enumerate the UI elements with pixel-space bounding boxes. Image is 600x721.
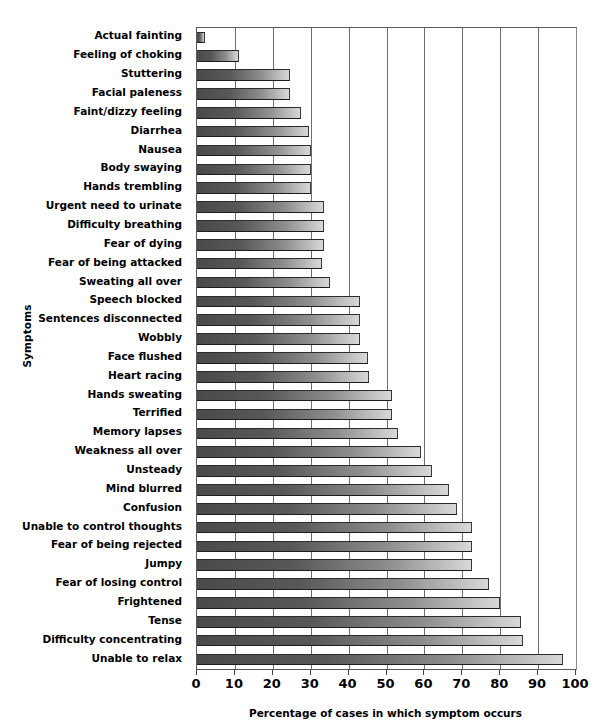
x-tick-label: 10	[214, 676, 254, 691]
y-axis-label: Unable to relax	[0, 653, 182, 664]
y-axis-label: Heart racing	[0, 370, 182, 381]
x-tick-mark	[196, 669, 197, 675]
bar	[197, 635, 523, 647]
y-axis-label: Feeling of choking	[0, 49, 182, 60]
bar	[197, 32, 205, 44]
bar	[197, 616, 521, 628]
y-axis-label: Diarrhea	[0, 125, 182, 136]
y-axis-label: Terrified	[0, 407, 182, 418]
bar	[197, 107, 301, 119]
y-axis-label: Fear of dying	[0, 238, 182, 249]
bar-row	[197, 443, 576, 462]
y-axis-label: Hands sweating	[0, 389, 182, 400]
bar-chart: Symptoms Actual faintingFeeling of choki…	[0, 0, 600, 721]
y-axis-label: Nausea	[0, 144, 182, 155]
x-tick-mark	[272, 669, 273, 675]
bar-row	[197, 556, 576, 575]
bar-row	[197, 594, 576, 613]
x-tick-mark	[575, 669, 576, 675]
bar-row	[197, 217, 576, 236]
bar-row	[197, 499, 576, 518]
bar-row	[197, 612, 576, 631]
y-axis-label: Urgent need to urinate	[0, 200, 182, 211]
x-tick-mark	[310, 669, 311, 675]
y-axis-label: Unsteady	[0, 464, 182, 475]
y-axis-label: Stuttering	[0, 68, 182, 79]
bar-row	[197, 160, 576, 179]
bar	[197, 465, 432, 477]
bar-row	[197, 480, 576, 499]
bar	[197, 578, 489, 590]
x-tick-mark	[499, 669, 500, 675]
y-axis-label: Facial paleness	[0, 87, 182, 98]
x-tick-label: 40	[328, 676, 368, 691]
bar-row	[197, 462, 576, 481]
bar	[197, 522, 472, 534]
bar	[197, 277, 330, 289]
y-axis-label: Frightened	[0, 596, 182, 607]
bar-row	[197, 85, 576, 104]
bar-row	[197, 537, 576, 556]
x-tick-mark	[348, 669, 349, 675]
y-axis-label: Speech blocked	[0, 294, 182, 305]
bar	[197, 446, 421, 458]
plot-area	[196, 27, 577, 670]
bar-row	[197, 575, 576, 594]
y-axis-label: Sweating all over	[0, 276, 182, 287]
bar	[197, 50, 239, 62]
bar-row	[197, 47, 576, 66]
bar	[197, 409, 392, 421]
bar	[197, 201, 324, 213]
y-axis-label: Wobbly	[0, 332, 182, 343]
bar	[197, 296, 360, 308]
bar	[197, 239, 324, 251]
bar	[197, 182, 311, 194]
bar-row	[197, 405, 576, 424]
y-axis-label: Face flushed	[0, 351, 182, 362]
bar	[197, 371, 369, 383]
y-axis-label: Difficulty concentrating	[0, 634, 182, 645]
bar	[197, 333, 360, 345]
bar-row	[197, 386, 576, 405]
bar	[197, 258, 322, 270]
y-axis-label: Fear of being rejected	[0, 539, 182, 550]
bar-row	[197, 349, 576, 368]
bar-row	[197, 367, 576, 386]
x-tick-label: 70	[441, 676, 481, 691]
y-axis-label: Fear of losing control	[0, 577, 182, 588]
bar-row	[197, 66, 576, 85]
x-tick-mark	[234, 669, 235, 675]
bar	[197, 220, 324, 232]
bar	[197, 428, 398, 440]
y-axis-label: Hands trembling	[0, 181, 182, 192]
bar	[197, 654, 563, 666]
bar-row	[197, 179, 576, 198]
bar-row	[197, 28, 576, 47]
y-axis-label: Difficulty breathing	[0, 219, 182, 230]
y-axis-label: Jumpy	[0, 558, 182, 569]
bar-row	[197, 631, 576, 650]
y-axis-label: Faint/dizzy feeling	[0, 106, 182, 117]
y-axis-label: Body swaying	[0, 162, 182, 173]
bar-row	[197, 273, 576, 292]
x-tick-label: 90	[517, 676, 557, 691]
y-axis-label: Confusion	[0, 502, 182, 513]
y-axis-label: Unable to control thoughts	[0, 521, 182, 532]
bar	[197, 484, 449, 496]
y-axis-label: Fear of being attacked	[0, 257, 182, 268]
bar-row	[197, 292, 576, 311]
bar	[197, 145, 311, 157]
bar	[197, 88, 290, 100]
bar	[197, 69, 290, 81]
y-axis-label: Actual fainting	[0, 30, 182, 41]
bar	[197, 390, 392, 402]
x-tick-mark	[423, 669, 424, 675]
x-tick-label: 60	[403, 676, 443, 691]
bar-row	[197, 103, 576, 122]
x-axis-title: Percentage of cases in which symptom occ…	[196, 707, 575, 719]
bar	[197, 597, 500, 609]
bar-row	[197, 254, 576, 273]
bar-row	[197, 141, 576, 160]
y-axis-label: Tense	[0, 615, 182, 626]
x-tick-label: 0	[176, 676, 216, 691]
